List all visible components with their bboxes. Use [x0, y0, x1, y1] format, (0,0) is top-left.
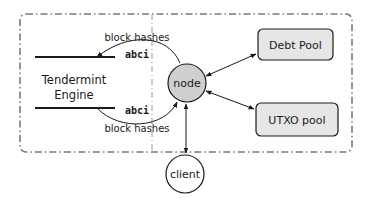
utxo-pool-label: UTXO pool [268, 114, 325, 127]
node-utxo-pool-arrow [206, 91, 254, 109]
node-label: node [173, 77, 201, 90]
node-debt-pool-arrow [206, 54, 256, 76]
engine-label-line2: Engine [54, 88, 93, 102]
debt-pool-label: Debt Pool [269, 39, 322, 52]
top-label-block-hashes: block hashes [104, 32, 169, 43]
bottom-label-abci: abci [125, 105, 149, 116]
client-label: client [170, 168, 201, 181]
engine-label-line1: Tendermint [41, 73, 107, 87]
architecture-diagram: Tendermint Engine block hashes abci abci… [0, 0, 370, 206]
top-label-abci: abci [125, 49, 149, 60]
bottom-label-block-hashes: block hashes [104, 123, 169, 134]
